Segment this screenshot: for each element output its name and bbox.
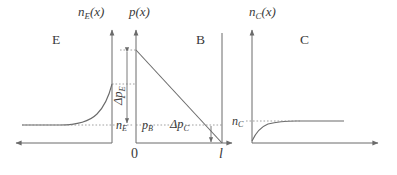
carrier-concentration-figure: nE(x) p(x) nC(x) E B C ΔpE nE pB ΔpC 0 l…: [0, 0, 397, 175]
base-region-label: B: [196, 33, 205, 47]
base-origin-label: 0: [131, 147, 138, 161]
collector-curve: [252, 121, 344, 141]
figure-canvas: [0, 0, 397, 175]
collector-function-label: nC(x): [249, 5, 276, 18]
delta-pe-label: ΔpE: [112, 86, 125, 105]
collector-level-label: nC: [232, 115, 243, 127]
collector-region-label: C: [300, 33, 309, 47]
emitter-level-label: nE: [116, 119, 127, 131]
base-level-label: pB: [142, 119, 153, 131]
base-function-label: p(x): [129, 5, 150, 18]
collector-panel: [246, 30, 378, 143]
emitter-function-label: nE(x): [78, 5, 104, 18]
base-width-label: l: [219, 147, 223, 161]
delta-pc-label: ΔpC: [170, 118, 189, 131]
emitter-region-label: E: [52, 33, 60, 47]
emitter-curve: [22, 84, 112, 125]
